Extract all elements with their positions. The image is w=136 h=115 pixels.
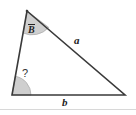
side-label-b: b (62, 97, 68, 108)
triangle-figure: B ? a b (0, 0, 136, 115)
angle-label-b: B (28, 24, 35, 35)
angle-label-unknown: ? (22, 68, 28, 79)
angle-label-b-text: B (28, 24, 35, 35)
side-label-a: a (74, 35, 80, 46)
vertex-dot-top (26, 10, 29, 13)
triangle-drawing (0, 0, 136, 115)
bottom-separator-line (0, 109, 136, 110)
